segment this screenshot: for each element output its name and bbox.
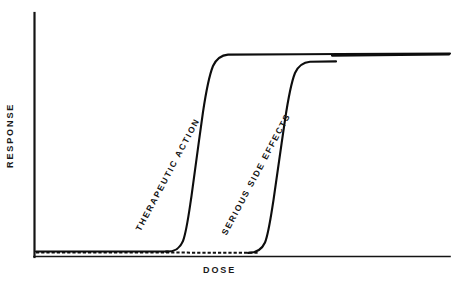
response-axis-label: RESPONSE xyxy=(6,103,15,168)
dose-response-figure: RESPONSE DOSE THERAPEUTIC ACTION SERIOUS… xyxy=(0,0,463,286)
merged-plateau-segment xyxy=(332,54,449,55)
chart-plot-area xyxy=(0,0,463,286)
therapeutic-action-curve xyxy=(166,54,450,252)
dose-axis-label: DOSE xyxy=(203,266,236,275)
